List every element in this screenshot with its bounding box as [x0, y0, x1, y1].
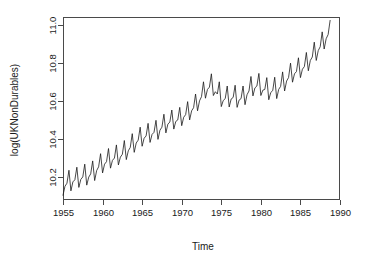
y-tick-label: 10.6	[47, 92, 58, 111]
x-axis-title: Time	[192, 241, 214, 252]
y-axis-title: log(UKNonDurables)	[9, 64, 20, 156]
x-tick-label: 1960	[93, 207, 114, 218]
x-tick-label: 1975	[211, 207, 232, 218]
y-tick-label: 10.2	[47, 168, 58, 187]
y-tick-label: 11.0	[47, 17, 58, 35]
timeseries-line-chart: 19551960196519701975198019851990 10.210.…	[0, 0, 366, 264]
y-tick-label: 10.8	[47, 54, 58, 73]
x-tick-label: 1980	[251, 207, 272, 218]
x-tick-label: 1985	[290, 207, 311, 218]
x-tick-label: 1970	[172, 207, 193, 218]
chart-plot-area: 19551960196519701975198019851990 10.210.…	[0, 0, 366, 264]
y-tick-label: 10.4	[47, 130, 58, 149]
x-tick-label: 1955	[53, 207, 74, 218]
x-tick-label: 1990	[330, 207, 351, 218]
x-tick-label: 1965	[132, 207, 153, 218]
